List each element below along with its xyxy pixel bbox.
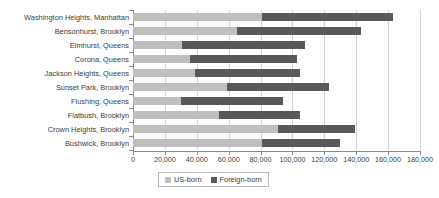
y-tick-mark bbox=[129, 66, 133, 67]
y-tick-mark bbox=[129, 150, 133, 151]
legend-label-us-born: US-born bbox=[174, 175, 202, 184]
bar-segment-foreign-born bbox=[227, 83, 329, 91]
bar-segment-us-born bbox=[133, 97, 181, 105]
category-label: Corona, Queens bbox=[0, 55, 129, 64]
legend-label-foreign-born: Foreign-born bbox=[220, 175, 262, 184]
y-tick-mark bbox=[129, 38, 133, 39]
chart-legend: US-born Foreign-born bbox=[158, 172, 269, 187]
category-label: Crown Heights, Brooklyn bbox=[0, 125, 129, 134]
y-tick-mark bbox=[129, 108, 133, 109]
x-tick-label: 0 bbox=[131, 155, 135, 164]
bar-segment-us-born bbox=[133, 125, 278, 133]
x-tick-label: 180,000 bbox=[407, 155, 433, 164]
x-tick-label: 40,000 bbox=[186, 155, 208, 164]
category-label: Washington Heights, Manhattan bbox=[0, 13, 129, 22]
x-tick-label: 160,000 bbox=[375, 155, 401, 164]
x-axis-line bbox=[133, 151, 421, 152]
x-tick-label: 60,000 bbox=[218, 155, 240, 164]
bar-segment-us-born bbox=[133, 55, 190, 63]
y-tick-mark bbox=[129, 122, 133, 123]
x-tick-label: 20,000 bbox=[154, 155, 176, 164]
category-label: Jackson Heights, Queens bbox=[0, 69, 129, 78]
bar-segment-us-born bbox=[133, 139, 262, 147]
bar-segment-foreign-born bbox=[190, 55, 297, 63]
gridline bbox=[388, 10, 389, 150]
category-label: Elmhurst, Queens bbox=[0, 41, 129, 50]
category-label: Flushing, Queens bbox=[0, 97, 129, 106]
bar-segment-us-born bbox=[133, 27, 237, 35]
stacked-bar-chart: Washington Heights, ManhattanBensonhurst… bbox=[0, 0, 439, 198]
legend-item-foreign-born: Foreign-born bbox=[211, 175, 262, 184]
legend-swatch-foreign-born-icon bbox=[211, 177, 217, 183]
bar-segment-foreign-born bbox=[182, 41, 305, 49]
y-tick-mark bbox=[129, 136, 133, 137]
x-tick-label: 140,000 bbox=[343, 155, 369, 164]
bar-segment-foreign-born bbox=[262, 139, 340, 147]
bar-segment-us-born bbox=[133, 41, 182, 49]
bar-segment-us-born bbox=[133, 83, 227, 91]
category-label: Sunset Park, Brooklyn bbox=[0, 83, 129, 92]
legend-swatch-us-born-icon bbox=[165, 177, 171, 183]
y-tick-mark bbox=[129, 24, 133, 25]
bar-segment-us-born bbox=[133, 69, 195, 77]
x-tick-label: 80,000 bbox=[250, 155, 272, 164]
bar-segment-us-born bbox=[133, 13, 262, 21]
bar-segment-foreign-born bbox=[262, 13, 393, 21]
y-tick-mark bbox=[129, 94, 133, 95]
bar-segment-foreign-born bbox=[278, 125, 355, 133]
bar-segment-foreign-born bbox=[237, 27, 361, 35]
bar-segment-foreign-born bbox=[195, 69, 300, 77]
legend-item-us-born: US-born bbox=[165, 175, 202, 184]
category-label: Bushwick, Brooklyn bbox=[0, 139, 129, 148]
y-tick-mark bbox=[129, 80, 133, 81]
category-label: Bensonhurst, Brooklyn bbox=[0, 27, 129, 36]
x-tick-label: 120,000 bbox=[311, 155, 337, 164]
category-label: Flatbush, Brooklyn bbox=[0, 111, 129, 120]
x-tick-label: 100,000 bbox=[279, 155, 305, 164]
y-tick-mark bbox=[129, 52, 133, 53]
bar-segment-foreign-born bbox=[219, 111, 300, 119]
gridline bbox=[420, 10, 421, 150]
bar-segment-us-born bbox=[133, 111, 219, 119]
bar-segment-foreign-born bbox=[181, 97, 283, 105]
y-tick-mark bbox=[129, 10, 133, 11]
